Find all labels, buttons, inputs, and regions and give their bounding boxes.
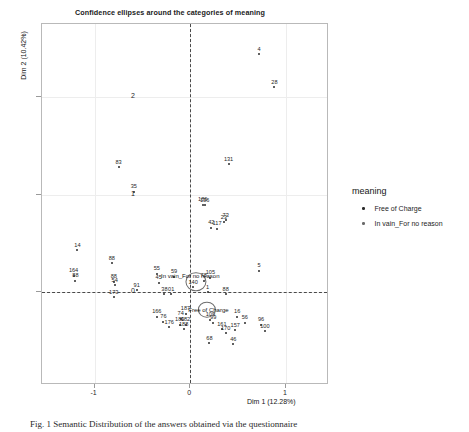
data-point-label: 4 xyxy=(258,47,261,53)
data-point xyxy=(225,332,227,334)
x-tick-label: -1 xyxy=(84,389,104,396)
data-point-label: 88 xyxy=(223,287,229,293)
x-tick-mark xyxy=(94,384,95,388)
data-point xyxy=(185,313,187,315)
x-axis-label: Dim 1 (12.28%) xyxy=(247,398,296,405)
data-point xyxy=(234,329,236,331)
data-point xyxy=(216,228,218,230)
gridline-horizontal xyxy=(42,195,327,196)
x-tick-mark xyxy=(285,384,286,388)
data-point xyxy=(168,326,170,328)
data-point-label: 68 xyxy=(206,336,212,342)
data-point xyxy=(111,262,113,264)
data-point xyxy=(114,284,116,286)
x-tick-label: 0 xyxy=(179,389,199,396)
data-point-label: 46 xyxy=(230,337,236,343)
data-point xyxy=(74,280,76,282)
data-point xyxy=(223,221,225,223)
legend-item-in-vain-for-no-reason[interactable]: In vain_For no reason xyxy=(352,220,467,227)
figure-caption: Fig. 1 Semantic Distribution of the answ… xyxy=(30,419,469,429)
data-point xyxy=(258,53,260,55)
y-axis-label: Dim 2 (10.42%) xyxy=(20,11,27,101)
data-point xyxy=(136,289,138,291)
data-point-label: 56 xyxy=(242,315,248,321)
y-tick-label: 1 xyxy=(117,190,135,197)
data-point-label: 14 xyxy=(74,243,80,249)
data-point-label: 88 xyxy=(111,274,117,280)
legend-item-label: In vain_For no reason xyxy=(375,220,443,227)
y-tick-mark xyxy=(36,291,41,292)
y-tick-mark xyxy=(36,96,41,97)
legend-title: meaning xyxy=(352,186,467,196)
data-point xyxy=(212,322,214,324)
data-point xyxy=(264,330,266,332)
data-point-label: 157 xyxy=(231,323,240,329)
data-point-label: 88 xyxy=(72,274,78,280)
category-centroid-label: Free of Charge xyxy=(188,307,228,313)
y-tick-label: 2 xyxy=(117,92,135,99)
data-point-label: 131 xyxy=(224,157,233,163)
plot-area: 4281318335186136732342117514881648854881… xyxy=(42,24,327,383)
data-point xyxy=(236,316,238,318)
data-point-label: 96 xyxy=(258,317,264,323)
data-point-label: 16 xyxy=(234,310,240,316)
data-point xyxy=(244,322,246,324)
data-point xyxy=(258,270,260,272)
legend-marker-icon xyxy=(362,222,365,225)
data-point-label: 55 xyxy=(154,267,160,273)
reference-line-vertical xyxy=(190,24,191,383)
legend: meaning Free of Charge In vain_For no re… xyxy=(352,186,467,235)
data-point-label: 88 xyxy=(109,256,115,262)
data-point xyxy=(273,86,275,88)
data-point-label: 5 xyxy=(258,264,261,270)
data-point xyxy=(207,291,209,293)
gridline-vertical xyxy=(95,24,96,383)
data-point-label: 1 xyxy=(206,285,209,291)
data-point xyxy=(113,281,115,283)
data-point xyxy=(118,166,120,168)
data-point-label: 117 xyxy=(213,222,222,228)
data-point-label: 170 xyxy=(221,326,230,332)
data-point-label: 01 xyxy=(168,287,174,293)
data-point-label: 28 xyxy=(271,80,277,86)
data-point-label: 83 xyxy=(115,160,121,166)
data-point-label: 23 xyxy=(221,215,227,221)
legend-item-label: Free of Charge xyxy=(375,205,422,212)
data-point xyxy=(76,249,78,251)
category-centroid-label: In vain_For no reason xyxy=(161,273,219,279)
plot-panel: 4281318335186136732342117514881648854881… xyxy=(41,23,328,384)
data-point xyxy=(204,204,206,206)
data-point xyxy=(113,296,115,298)
data-point xyxy=(156,316,158,318)
legend-item-free-of-charge[interactable]: Free of Charge xyxy=(352,205,467,212)
data-point xyxy=(232,343,234,345)
data-point-label: 188 xyxy=(179,322,188,328)
data-point-label: 176 xyxy=(165,320,174,326)
data-point xyxy=(225,293,227,295)
y-tick-mark xyxy=(36,194,41,195)
x-tick-label: 1 xyxy=(275,389,295,396)
x-tick-mark xyxy=(189,384,190,388)
data-point xyxy=(228,163,230,165)
figure-container: Confidence ellipses around the categorie… xyxy=(0,0,469,432)
legend-marker-icon xyxy=(362,207,365,210)
data-point-label: 136 xyxy=(200,198,209,204)
gridline-vertical xyxy=(286,24,287,383)
data-point xyxy=(170,293,172,295)
chart-title: Confidence ellipses around the categorie… xyxy=(0,8,340,17)
data-point xyxy=(158,282,160,284)
gridline-horizontal xyxy=(42,97,327,98)
data-point-label: 38 xyxy=(161,287,167,293)
data-point-label: 100 xyxy=(260,324,269,330)
data-point xyxy=(208,342,210,344)
reference-line-horizontal xyxy=(42,292,327,293)
data-point xyxy=(183,328,185,330)
data-point xyxy=(163,293,165,295)
y-tick-label: 0 xyxy=(117,287,135,294)
